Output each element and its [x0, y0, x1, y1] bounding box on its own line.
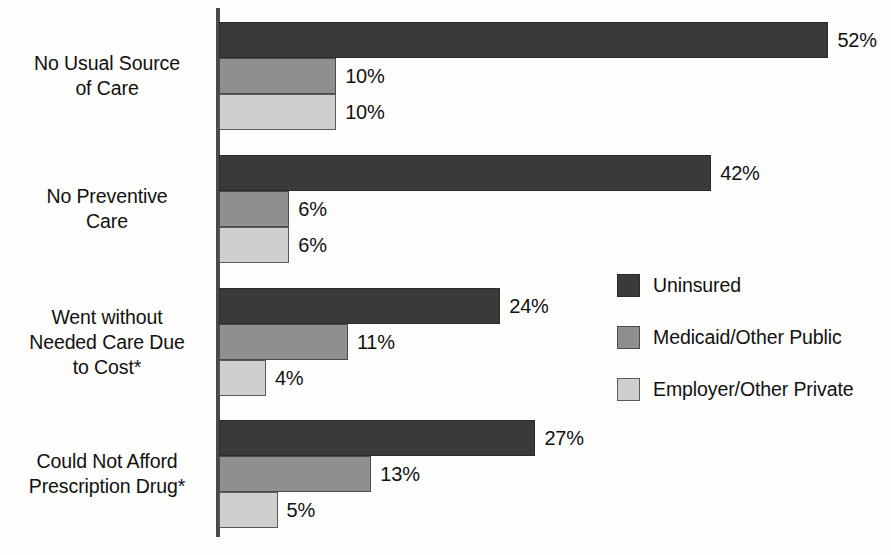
bar-value-0-1: 10%: [345, 58, 384, 94]
bar-value-2-1: 11%: [357, 324, 395, 360]
bar-0-2[interactable]: [219, 94, 336, 130]
bar-2-0[interactable]: [219, 288, 500, 324]
bar-value-0-2: 10%: [345, 94, 384, 130]
bar-value-3-1: 13%: [380, 456, 419, 492]
bar-3-0[interactable]: [219, 420, 535, 456]
bar-3-1[interactable]: [219, 456, 371, 492]
bar-value-3-2: 5%: [287, 492, 316, 528]
bar-value-1-0: 42%: [720, 155, 759, 191]
legend-item-employer-other-private[interactable]: Employer/Other Private: [617, 376, 853, 402]
bar-value-3-0: 27%: [544, 420, 583, 456]
bar-1-0[interactable]: [219, 155, 711, 191]
bar-0-1[interactable]: [219, 58, 336, 94]
bar-0-0[interactable]: [219, 22, 828, 58]
light-swatch-icon: [617, 378, 640, 401]
bar-value-0-0: 52%: [837, 22, 876, 58]
legend: Uninsured Medicaid/Other Public Employer…: [617, 272, 853, 428]
category-label-2: Went without Needed Care Due to Cost*: [6, 305, 208, 380]
bar-1-1[interactable]: [219, 191, 289, 227]
legend-label-medicaid-other-public: Medicaid/Other Public: [653, 326, 842, 349]
bar-2-1[interactable]: [219, 324, 348, 360]
legend-label-uninsured: Uninsured: [653, 274, 741, 297]
category-label-1: No Preventive Care: [6, 184, 208, 234]
bar-2-2[interactable]: [219, 360, 266, 396]
bar-value-1-2: 6%: [298, 227, 327, 263]
legend-item-uninsured[interactable]: Uninsured: [617, 272, 853, 298]
plot-area: No Usual Source of Care No Preventive Ca…: [0, 0, 891, 555]
category-label-0: No Usual Source of Care: [6, 51, 208, 101]
bar-value-2-2: 4%: [275, 360, 304, 396]
bar-1-2[interactable]: [219, 227, 289, 263]
bar-chart: No Usual Source of Care No Preventive Ca…: [0, 0, 891, 555]
medium-swatch-icon: [617, 326, 640, 349]
category-label-3: Could Not Afford Prescription Drug*: [6, 449, 208, 499]
bar-value-2-0: 24%: [509, 288, 548, 324]
legend-item-medicaid-other-public[interactable]: Medicaid/Other Public: [617, 324, 853, 350]
bar-3-2[interactable]: [219, 492, 278, 528]
legend-label-employer-other-private: Employer/Other Private: [653, 378, 853, 401]
bar-value-1-1: 6%: [298, 191, 327, 227]
dark-swatch-icon: [617, 274, 640, 297]
